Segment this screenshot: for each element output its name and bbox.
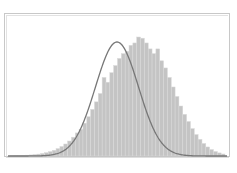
histogram-bar xyxy=(171,87,175,156)
histogram-bar xyxy=(133,43,137,156)
histogram-bar xyxy=(210,150,214,156)
histogram-bar xyxy=(175,97,179,157)
histogram-bars xyxy=(10,37,225,156)
histogram-bar xyxy=(118,58,122,156)
histogram-bar xyxy=(137,37,141,156)
histogram-bar xyxy=(202,144,206,156)
histogram-bar xyxy=(213,151,217,156)
histogram-bar xyxy=(152,54,156,156)
histogram-bar xyxy=(167,77,171,156)
histogram-bar xyxy=(198,139,202,156)
histogram-bar xyxy=(187,121,191,156)
histogram-bar xyxy=(79,129,83,156)
histogram-bar xyxy=(144,43,148,156)
histogram-bar xyxy=(190,129,194,156)
histogram-bar xyxy=(194,135,198,156)
histogram-chart xyxy=(0,0,237,173)
histogram-bar xyxy=(110,73,114,156)
histogram-bar xyxy=(148,49,152,156)
histogram-bar xyxy=(68,141,72,156)
histogram-bar xyxy=(121,54,125,156)
histogram-bar xyxy=(106,82,110,156)
histogram-bar xyxy=(206,147,210,156)
histogram-bar xyxy=(114,66,118,156)
histogram-bar xyxy=(94,102,98,156)
histogram-bar xyxy=(164,68,168,156)
histogram-bar xyxy=(183,114,187,156)
histogram-bar xyxy=(91,109,95,156)
histogram-bar xyxy=(87,117,91,156)
histogram-bar xyxy=(179,106,183,156)
histogram-bar xyxy=(83,123,87,156)
histogram-bar xyxy=(125,51,129,156)
histogram-bar xyxy=(102,77,106,156)
histogram-bar xyxy=(98,94,102,156)
